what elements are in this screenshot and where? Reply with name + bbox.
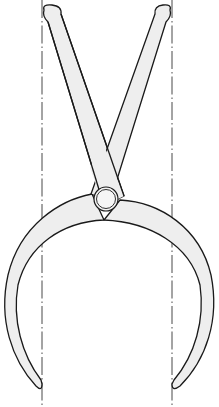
right-jaw	[104, 200, 214, 389]
pivot-rivet-inner	[97, 190, 116, 209]
calipers-drawing	[0, 0, 219, 407]
left-jaw	[5, 194, 104, 389]
